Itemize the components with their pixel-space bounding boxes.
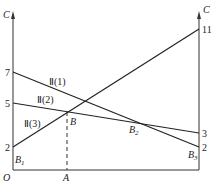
origin-label: O: [3, 172, 10, 183]
cost-diagram: C C O A 7 5 2 11 3 2 Ⅱ(1) Ⅱ(2) Ⅱ(3) B1 B…: [0, 0, 217, 184]
left-axis-arrow-icon: [11, 11, 15, 19]
point-b1-label: B1: [15, 154, 25, 167]
right-axis-label: C: [203, 4, 210, 15]
left-tick-7: 7: [5, 67, 10, 78]
line-ii-2-label: Ⅱ(2): [37, 94, 54, 106]
line-ii-1: [13, 72, 199, 147]
line-ii-2: [13, 103, 199, 133]
line-ii-3: [13, 29, 199, 147]
right-tick-2: 2: [202, 142, 207, 153]
left-tick-5: 5: [5, 98, 10, 109]
point-b3-label: B3: [188, 149, 198, 162]
line-ii-1-label: Ⅱ(1): [49, 76, 66, 88]
right-tick-11: 11: [202, 24, 212, 35]
point-b2-label: B2: [129, 124, 139, 137]
right-axis-arrow-icon: [197, 11, 201, 19]
left-tick-2: 2: [5, 142, 10, 153]
x-marker-a-label: A: [62, 172, 70, 183]
line-ii-3-label: Ⅱ(3): [24, 118, 41, 130]
point-b-label: B: [70, 116, 76, 127]
right-tick-3: 3: [202, 128, 207, 139]
left-axis-label: C: [3, 9, 10, 20]
